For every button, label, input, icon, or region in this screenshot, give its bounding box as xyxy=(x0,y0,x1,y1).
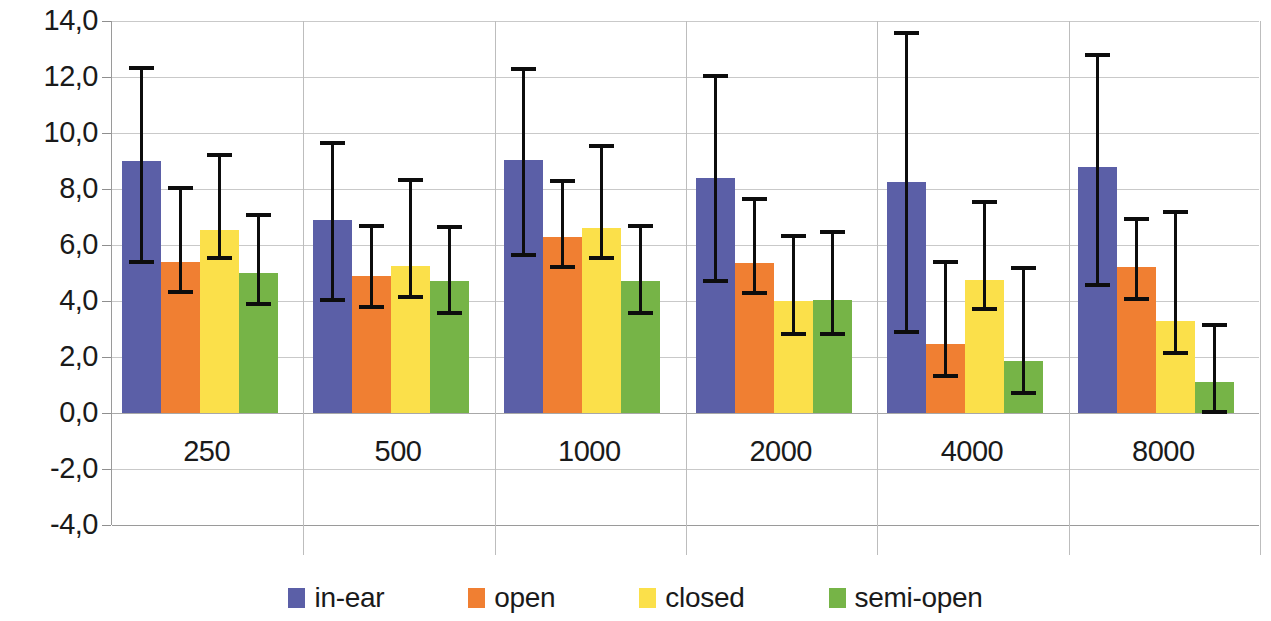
error-bar-cap-upper xyxy=(894,31,919,35)
legend-swatch-icon xyxy=(288,588,305,608)
error-bar-cap-upper xyxy=(589,144,614,148)
y-axis-tick-label: 2,0 xyxy=(6,342,98,371)
y-axis-tick xyxy=(102,189,111,190)
error-bar-cap-lower xyxy=(781,332,806,336)
error-bar-in-ear-8000 xyxy=(1096,53,1099,283)
x-axis-category-label: 2000 xyxy=(685,435,876,468)
error-bar-cap-lower xyxy=(1124,297,1149,301)
error-bar-cap-lower xyxy=(1202,410,1227,414)
error-bar-cap-upper xyxy=(628,224,653,228)
error-bar-cap-upper xyxy=(1202,323,1227,327)
error-bar-in-ear-250 xyxy=(140,66,143,261)
error-bar-cap-upper xyxy=(781,234,806,238)
error-bar-cap-lower xyxy=(589,256,614,260)
error-bar-cap-lower xyxy=(246,302,271,306)
error-bar-open-2000 xyxy=(753,197,756,291)
y-axis-tick-label: -2,0 xyxy=(6,454,98,483)
y-axis-tick-label: 8,0 xyxy=(6,174,98,203)
error-bar-closed-8000 xyxy=(1174,210,1177,351)
error-bar-cap-upper xyxy=(1124,217,1149,221)
error-bar-cap-upper xyxy=(972,200,997,204)
error-bar-semi-open-8000 xyxy=(1213,323,1216,410)
error-bar-cap-upper xyxy=(933,260,958,264)
category-separator xyxy=(1260,21,1261,555)
error-bar-open-4000 xyxy=(944,260,947,373)
error-bar-cap-upper xyxy=(320,141,345,145)
error-bar-cap-lower xyxy=(437,311,462,315)
y-axis-tick-label: -4,0 xyxy=(6,510,98,539)
error-bar-cap-lower xyxy=(703,279,728,283)
error-bar-cap-upper xyxy=(1011,266,1036,270)
error-bar-closed-1000 xyxy=(600,144,603,256)
y-axis-tick xyxy=(102,245,111,246)
error-bar-cap-lower xyxy=(550,265,575,269)
error-bar-semi-open-2000 xyxy=(831,230,834,332)
legend-label: closed xyxy=(665,582,744,614)
error-bar-closed-500 xyxy=(409,178,412,296)
category-separator xyxy=(303,21,304,555)
y-axis-tick xyxy=(102,133,111,134)
error-bar-open-1000 xyxy=(561,179,564,264)
legend-item-open: open xyxy=(468,582,555,614)
y-axis-tick-label: 4,0 xyxy=(6,286,98,315)
y-axis-tick-label: 6,0 xyxy=(6,230,98,259)
category-separator xyxy=(1069,21,1070,555)
error-bar-cap-lower xyxy=(894,330,919,334)
error-bar-open-250 xyxy=(179,186,182,290)
y-axis-tick xyxy=(102,525,111,526)
error-bar-cap-lower xyxy=(1163,351,1188,355)
error-bar-in-ear-2000 xyxy=(714,74,717,278)
error-bar-cap-upper xyxy=(511,67,536,71)
error-bar-cap-upper xyxy=(820,230,845,234)
y-axis-tick-label: 14,0 xyxy=(6,6,98,35)
error-bar-cap-lower xyxy=(1011,391,1036,395)
error-bar-cap-lower xyxy=(511,253,536,257)
legend-item-semi-open: semi-open xyxy=(829,582,983,614)
error-bar-cap-upper xyxy=(1085,53,1110,57)
error-bar-closed-4000 xyxy=(983,200,986,306)
x-axis-category-label: 1000 xyxy=(494,435,685,468)
error-bar-cap-lower xyxy=(359,305,384,309)
error-bar-cap-lower xyxy=(820,332,845,336)
error-bar-cap-upper xyxy=(742,197,767,201)
error-bar-semi-open-500 xyxy=(448,225,451,310)
error-bar-cap-lower xyxy=(933,374,958,378)
error-bar-cap-upper xyxy=(437,225,462,229)
legend-label: semi-open xyxy=(855,582,983,614)
error-bar-cap-upper xyxy=(246,213,271,217)
legend-item-closed: closed xyxy=(639,582,744,614)
legend-item-in-ear: in-ear xyxy=(288,582,384,614)
error-bar-cap-lower xyxy=(129,260,154,264)
category-separator xyxy=(877,21,878,555)
error-bar-open-8000 xyxy=(1135,217,1138,297)
error-bar-cap-upper xyxy=(550,179,575,183)
error-bar-in-ear-4000 xyxy=(905,31,908,331)
error-bar-cap-upper xyxy=(129,66,154,70)
error-bar-cap-lower xyxy=(207,256,232,260)
category-separator xyxy=(495,21,496,555)
y-axis-tick xyxy=(102,469,111,470)
error-bar-cap-upper xyxy=(1163,210,1188,214)
legend-swatch-icon xyxy=(829,588,846,608)
error-bar-cap-upper xyxy=(703,74,728,78)
error-bar-semi-open-250 xyxy=(257,213,260,303)
error-bar-cap-upper xyxy=(168,186,193,190)
legend-swatch-icon xyxy=(468,588,485,608)
x-axis-category-label: 8000 xyxy=(1068,435,1259,468)
error-bar-open-500 xyxy=(370,224,373,305)
y-axis-tick xyxy=(102,413,111,414)
y-axis-tick xyxy=(102,77,111,78)
error-bar-in-ear-1000 xyxy=(522,67,525,253)
error-bar-cap-upper xyxy=(359,224,384,228)
y-axis-tick xyxy=(102,21,111,22)
error-bar-semi-open-1000 xyxy=(639,224,642,311)
y-axis-tick-label: 10,0 xyxy=(6,118,98,147)
y-axis-tick xyxy=(102,357,111,358)
error-bar-cap-lower xyxy=(972,307,997,311)
category-separator xyxy=(686,21,687,555)
y-axis-tick-label: 0,0 xyxy=(6,398,98,427)
x-axis-category-label: 500 xyxy=(302,435,493,468)
x-axis-category-label: 250 xyxy=(111,435,302,468)
bar-chart: 14,012,010,08,06,04,02,00,0-2,0-4,0 2505… xyxy=(0,0,1271,621)
error-bar-in-ear-500 xyxy=(331,141,334,298)
